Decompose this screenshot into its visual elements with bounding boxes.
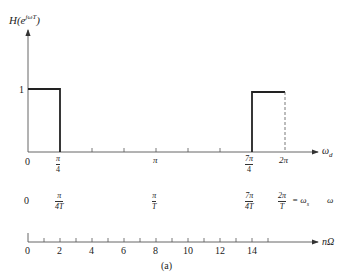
- n-tick-0: 0: [25, 246, 30, 256]
- frequency-response-plot: [0, 0, 346, 275]
- two-pi-over-T-label: 2πT: [278, 192, 286, 211]
- seven-pi-over-4-label: 7π4: [245, 155, 253, 174]
- n-tick-12: 12: [215, 246, 225, 256]
- pi-over-T-label: πT: [152, 192, 156, 211]
- n-omega-axis-label: nΩ: [322, 237, 334, 247]
- n-tick-14: 14: [247, 246, 257, 256]
- n-tick-2: 2: [57, 246, 62, 256]
- omega-axis-label: ω: [327, 196, 333, 205]
- y-tick-one: 1: [19, 85, 24, 95]
- n-tick-6: 6: [121, 246, 126, 256]
- n-omega-ticks: [44, 238, 268, 242]
- y-axis-label: H(ejωT): [9, 14, 40, 26]
- passband-image: [252, 92, 285, 152]
- n-tick-10: 10: [183, 246, 193, 256]
- pi-over-4T-label: π4T: [55, 192, 63, 211]
- wd-origin-label: 0: [25, 157, 30, 167]
- omega-d-axis-label: ωd: [322, 146, 333, 159]
- pi-label: π: [153, 156, 158, 165]
- n-tick-8: 8: [153, 246, 158, 256]
- seven-pi-over-4T-label: 7π4T: [245, 192, 253, 211]
- w-origin-label: 0: [24, 196, 29, 206]
- omega-d-ticks: [92, 148, 220, 152]
- figure-caption: (a): [161, 261, 172, 271]
- two-pi-label: 2π: [279, 156, 288, 165]
- pi-over-4-label: π4: [56, 155, 60, 174]
- n-tick-4: 4: [89, 246, 94, 256]
- passband-low: [28, 89, 60, 152]
- sampling-frequency-label: = ωs: [292, 196, 309, 207]
